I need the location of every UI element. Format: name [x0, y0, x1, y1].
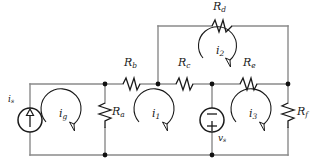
label-mesh-current-i3: i3	[249, 108, 257, 120]
node-mid-bc	[156, 82, 161, 87]
label-resistor-Ra: Ra	[112, 106, 125, 118]
label-resistor-Rc: Rc	[178, 57, 190, 69]
resistor-symbol-Rf	[282, 103, 294, 128]
label-resistor-Rb: Rb	[124, 57, 137, 69]
label-mesh-current-i2: i2	[216, 45, 224, 57]
voltage-source-symbol-vs	[200, 108, 224, 132]
node-mid-ce	[210, 82, 215, 87]
label-current-source-is: is	[8, 95, 14, 104]
node-bot-mid	[210, 153, 215, 158]
label-resistor-Rf: Rf	[297, 106, 308, 118]
label-mesh-current-i1: i1	[152, 108, 160, 120]
mesh-arrow-i2	[226, 58, 231, 67]
label-resistor-Rd: Rd	[213, 1, 226, 13]
node-mid-left	[103, 82, 108, 87]
junction-nodes	[103, 82, 291, 158]
current-source-symbol-is	[18, 108, 42, 132]
resistor-symbol-Rc	[176, 78, 193, 90]
mesh-arrow-i3	[260, 122, 265, 131]
circuit-diagram: Ra Rb Rc Rd Re Rf is vs ig i1 i2 i3	[0, 0, 319, 167]
node-mid-right	[286, 82, 291, 87]
resistor-symbol-Re	[240, 78, 257, 90]
label-mesh-current-ig: ig	[59, 108, 67, 120]
label-voltage-source-vs: vs	[218, 134, 226, 143]
node-bot-left	[103, 153, 108, 158]
mesh-arrow-i1	[163, 122, 168, 131]
mesh-arrow-ig	[70, 122, 75, 131]
circuit-schematic-svg	[0, 0, 319, 167]
resistor-symbol-Ra	[99, 103, 111, 128]
label-resistor-Re: Re	[243, 57, 256, 69]
resistor-symbol-Rb	[123, 78, 140, 90]
